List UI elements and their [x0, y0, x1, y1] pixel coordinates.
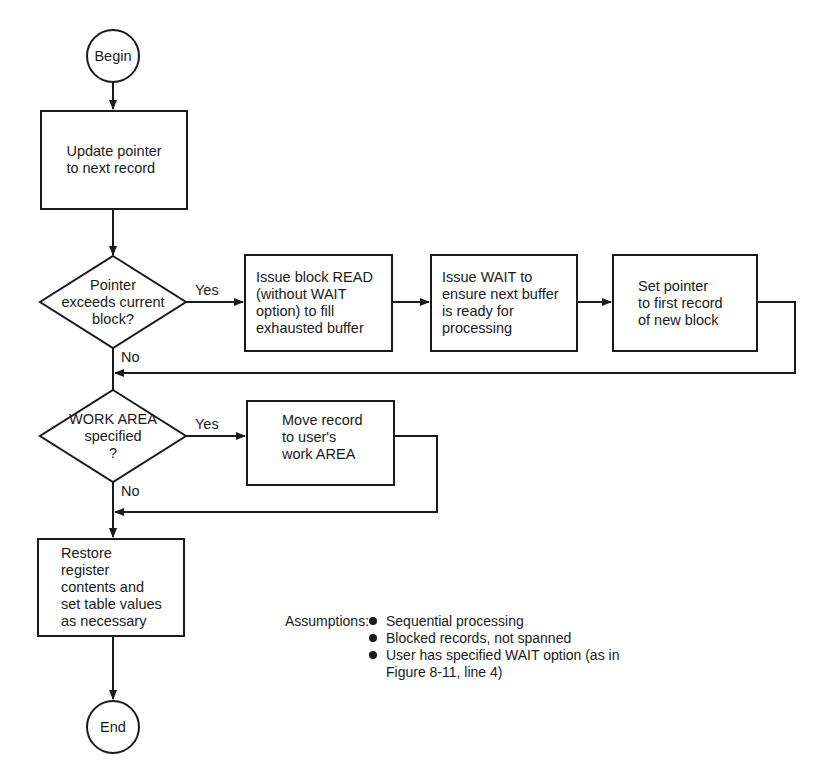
set-pointer-box: Set pointer to first record of new block: [612, 254, 758, 352]
issue-wait-box: Issue WAIT to ensure next buffer is read…: [430, 254, 578, 352]
set-pointer-label: Set pointer to first record of new block: [638, 278, 723, 329]
begin-label: Begin: [94, 48, 131, 65]
move-record-box: Move record to user's work AREA: [246, 400, 395, 486]
issue-wait-label: Issue WAIT to ensure next buffer is read…: [442, 269, 559, 337]
edge-label-work-area-yes: Yes: [195, 416, 219, 432]
issue-read-label: Issue block READ (without WAIT option) t…: [256, 269, 373, 337]
edge-label-work-area-no: No: [121, 483, 140, 499]
end-label: End: [100, 719, 126, 736]
edge-label-exceeds-no: No: [121, 349, 140, 365]
decision-work-area-label: WORK AREA specified ?: [48, 411, 178, 462]
update-pointer-label: Update pointer to next record: [66, 143, 161, 177]
end-terminal: End: [86, 700, 140, 754]
update-pointer-box: Update pointer to next record: [40, 110, 188, 210]
bullet-icon: [369, 617, 377, 625]
assumption-item: Blocked records, not spanned: [366, 630, 646, 647]
assumptions-list: Sequential processing Blocked records, n…: [366, 613, 646, 681]
bullet-icon: [369, 634, 377, 642]
move-record-label: Move record to user's work AREA: [282, 412, 363, 463]
restore-label: Restore register contents and set table …: [61, 545, 162, 630]
bullet-icon: [369, 651, 377, 659]
assumption-item: User has specified WAIT option (as in Fi…: [366, 647, 646, 681]
begin-terminal: Begin: [86, 29, 140, 83]
assumptions-heading: Assumptions:: [285, 613, 369, 630]
decision-exceeds-label: Pointer exceeds current block?: [48, 277, 178, 328]
issue-read-box: Issue block READ (without WAIT option) t…: [244, 254, 393, 352]
restore-box: Restore register contents and set table …: [37, 538, 185, 637]
edge-label-exceeds-yes: Yes: [195, 282, 219, 298]
assumption-item: Sequential processing: [366, 613, 646, 630]
